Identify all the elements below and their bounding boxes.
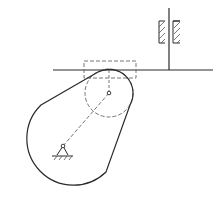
guide-bearing-right xyxy=(173,21,180,43)
guide-bearing-left xyxy=(159,21,165,43)
cam-profile xyxy=(27,69,133,185)
pivot-joint xyxy=(61,144,65,148)
cam-mechanism-diagram xyxy=(0,0,223,205)
circle-center-joint xyxy=(107,91,111,95)
fixed-pivot xyxy=(52,144,73,160)
